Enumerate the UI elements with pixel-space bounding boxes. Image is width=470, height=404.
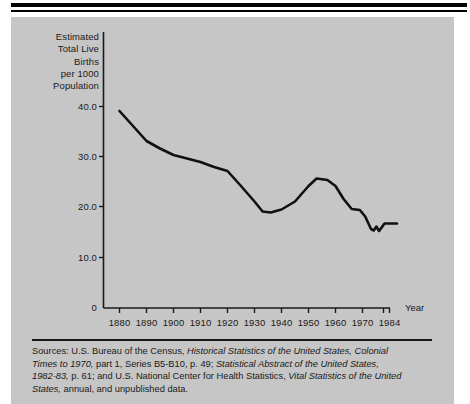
- x-tick-label-1950: 1950: [298, 317, 320, 328]
- sources-note: Sources: U.S. Bureau of the Census, Hist…: [32, 345, 444, 395]
- y-tick-label-30: 30.0: [57, 151, 97, 162]
- top-rule-thin: [11, 10, 467, 12]
- y-caption-line-4: per 1000: [19, 68, 99, 80]
- data-line-birth-rate: [120, 111, 398, 231]
- y-caption-line-1: Estimated: [19, 31, 99, 43]
- y-caption-line-2: Total Live: [19, 43, 99, 55]
- x-tick-label-1880: 1880: [109, 317, 131, 328]
- sources-divider: [32, 339, 432, 341]
- x-tick-label-1984: 1984: [379, 317, 401, 328]
- x-tick-label-1890: 1890: [136, 317, 158, 328]
- y-caption-line-5: Population: [19, 80, 99, 92]
- sources-line-1: Sources: U.S. Bureau of the Census, Hist…: [32, 345, 444, 358]
- top-rule-thick: [11, 3, 467, 7]
- y-tick-label-20: 20.0: [57, 201, 97, 212]
- figure-panel: Estimated Total Live Births per 1000 Pop…: [11, 17, 454, 404]
- sources-line-4: States, annual, and unpublished data.: [32, 383, 444, 396]
- y-tick-label-40: 40.0: [57, 101, 97, 112]
- y-tick-label-10: 10.0: [57, 252, 97, 263]
- x-tick-label-1920: 1920: [217, 317, 239, 328]
- y-tick-label-0: 0: [57, 302, 97, 313]
- sources-line-3: 1982-83, p. 61; and U.S. National Center…: [32, 370, 444, 383]
- y-caption-line-3: Births: [19, 56, 99, 68]
- sources-line-2: Times to 1970, part 1, Series B5-B10, p.…: [32, 358, 444, 371]
- y-axis-caption: Estimated Total Live Births per 1000 Pop…: [19, 31, 99, 92]
- x-tick-label-1970: 1970: [352, 317, 374, 328]
- x-axis-title: Year: [405, 302, 424, 313]
- x-tick-label-1930: 1930: [244, 317, 266, 328]
- x-tick-label-1900: 1900: [163, 317, 185, 328]
- x-tick-label-1910: 1910: [190, 317, 212, 328]
- x-tick-label-1960: 1960: [325, 317, 347, 328]
- x-tick-label-1940: 1940: [271, 317, 293, 328]
- chart-plot-area: Estimated Total Live Births per 1000 Pop…: [11, 17, 454, 337]
